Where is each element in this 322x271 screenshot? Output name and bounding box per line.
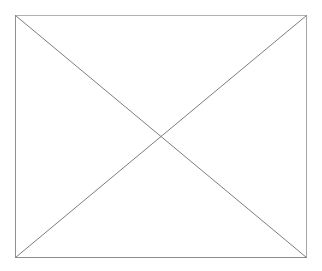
missing-image-placeholder-icon [0,0,322,271]
placeholder-canvas [0,0,322,271]
